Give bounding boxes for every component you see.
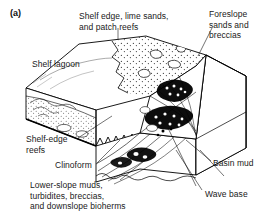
label-lower-slope-muds: Lower-slope muds, turbidites, breccias, … <box>30 180 126 212</box>
label-wave-base: Wave base <box>205 189 248 200</box>
label-clinoform: Clinoform <box>55 160 92 171</box>
label-shelf-lagoon: Shelf lagoon <box>32 59 80 70</box>
label-basin-mud: Basin mud <box>213 158 254 169</box>
label-foreslope-sands-breccias: Foreslope sands and breccias <box>209 9 249 41</box>
panel-letter: (a) <box>10 8 21 18</box>
label-shelf-edge-reefs: Shelf-edge reefs <box>26 134 68 155</box>
block-front-right-face <box>96 133 196 184</box>
carbonate-platform-block-diagram: (a) Shelf edge, lime sands, and patch re… <box>0 0 268 224</box>
label-shelf-edge-lime-sands: Shelf edge, lime sands, and patch reefs <box>79 11 169 32</box>
